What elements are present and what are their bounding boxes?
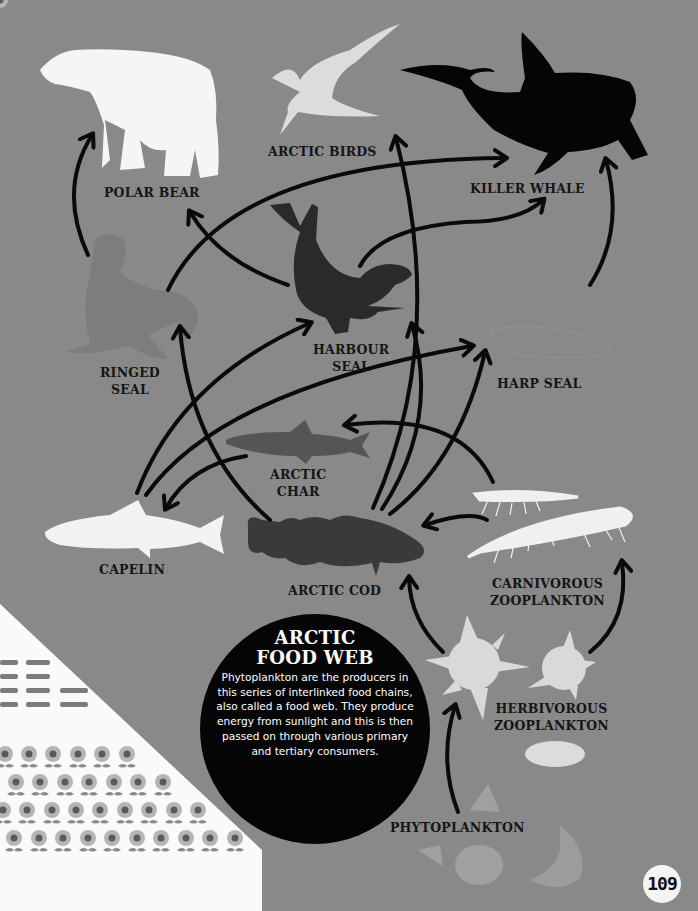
- info-title-line: FOOD WEB: [200, 648, 430, 668]
- arctic-cod-icon: [248, 515, 424, 576]
- label-harp-seal: HARP SEAL: [497, 375, 582, 392]
- carnivorous-zooplankton-icon: [468, 492, 631, 563]
- label-arctic-cod: ARCTIC COD: [288, 582, 381, 599]
- label-ringed-seal: RINGED SEAL: [100, 364, 160, 398]
- harbour-seal-icon: [270, 203, 412, 334]
- label-herbivorous-zooplankton: HERBIVOROUS ZOOPLANKTON: [494, 700, 609, 734]
- arrow-harpseal-to-killerwhale: [590, 160, 613, 285]
- polar-bear-icon: [40, 49, 219, 178]
- label-killer-whale: KILLER WHALE: [470, 180, 585, 197]
- label-arctic-birds: ARCTIC BIRDS: [268, 143, 377, 160]
- capelin-icon: [45, 500, 224, 558]
- arrow-carnzoo-to-cod: [425, 516, 487, 525]
- arrow-carnzoo-to-char: [346, 422, 493, 482]
- label-carnivorous-zooplankton: CARNIVOROUS ZOOPLANKTON: [490, 575, 605, 609]
- killer-whale-icon: [400, 32, 648, 175]
- label-phytoplankton: PHYTOPLANKTON: [390, 819, 525, 836]
- label-line: HARBOUR: [313, 341, 389, 358]
- arrow-harbourseal-to-polarbear: [190, 212, 288, 285]
- arrow-harbourseal-to-killerwhale: [360, 200, 543, 266]
- label-line: ARCTIC: [270, 466, 326, 483]
- label-line: ZOOPLANKTON: [490, 592, 605, 609]
- label-line: CARNIVOROUS: [490, 575, 605, 592]
- info-circle: ARCTIC FOOD WEB Phytoplankton are the pr…: [200, 614, 430, 844]
- label-line: RINGED: [100, 364, 160, 381]
- info-title: ARCTIC FOOD WEB: [200, 614, 430, 668]
- label-line: HERBIVOROUS: [494, 700, 609, 717]
- sunflower-icons: [0, 0, 9, 14]
- label-line: ZOOPLANKTON: [494, 717, 609, 734]
- arrow-ringedseal-to-polarbear: [74, 135, 92, 255]
- food-web-page: POLAR BEAR ARCTIC BIRDS KILLER WHALE RIN…: [0, 0, 698, 911]
- label-harbour-seal: HARBOUR SEAL: [313, 341, 389, 375]
- herbivorous-zooplankton-icon: [425, 615, 596, 767]
- info-description: Phytoplankton are the producers in this …: [214, 670, 416, 758]
- arrow-phyto-to-herbzoo: [447, 706, 458, 812]
- label-capelin: CAPELIN: [99, 561, 165, 578]
- page-number: 109: [643, 865, 681, 903]
- info-title-line: ARCTIC: [200, 628, 430, 648]
- label-line: SEAL: [313, 358, 389, 375]
- label-arctic-char: ARCTIC CHAR: [270, 466, 326, 500]
- harp-seal-icon: [490, 327, 610, 358]
- label-line: SEAL: [100, 381, 160, 398]
- arctic-bird-icon: [272, 24, 400, 135]
- label-polar-bear: POLAR BEAR: [104, 184, 200, 201]
- label-line: CHAR: [270, 483, 326, 500]
